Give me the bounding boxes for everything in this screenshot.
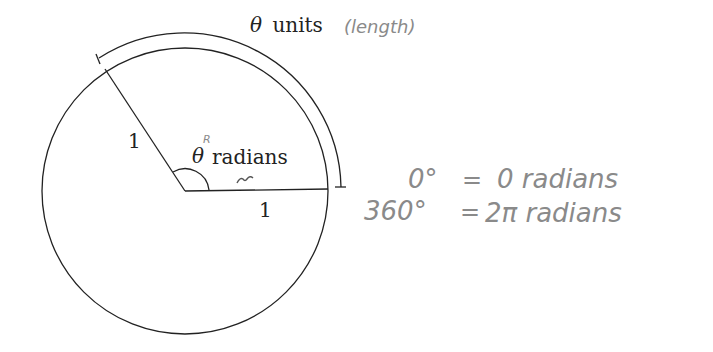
radius-label-horizontal: 1 (259, 198, 272, 222)
equation-eq: = (462, 166, 482, 194)
arc-length-annotation: (length) (344, 16, 415, 37)
equation-rhs: 0 radians (497, 164, 618, 194)
radius-angled (105, 69, 185, 191)
equation-1: 360° = 2π radians (364, 196, 622, 228)
equation-eq: = (460, 198, 480, 226)
equation-rhs: 2π radians (485, 198, 622, 228)
tilde-mark-icon (237, 177, 253, 183)
angle-label: radians (212, 145, 288, 169)
equation-lhs: 360° (364, 196, 427, 226)
equation-0: 0° = 0 radians (408, 164, 618, 194)
angle-superscript: R (203, 133, 211, 146)
angle-theta: θ (192, 144, 204, 168)
angle-arc-icon (173, 169, 209, 190)
equation-lhs: 0° (408, 164, 438, 194)
radius-label-angled: 1 (128, 129, 141, 153)
bracket-start-tick (96, 54, 100, 64)
arc-label: θ units (250, 13, 323, 37)
unit-circle-diagram: θ units (length) θ R radians 1 1 0° = 0 … (0, 0, 713, 352)
radius-horizontal (185, 189, 328, 191)
